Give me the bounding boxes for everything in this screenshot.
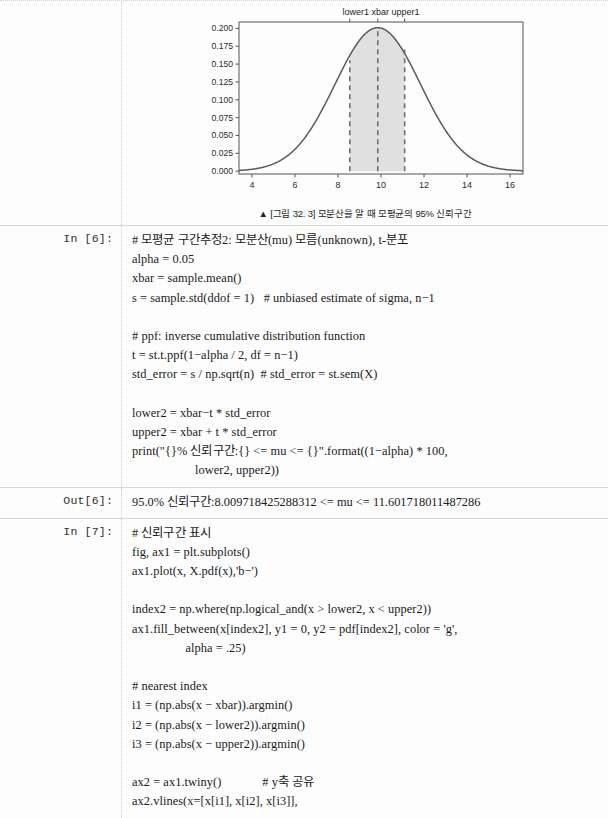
- code-line: [132, 308, 602, 327]
- code-line: [132, 754, 602, 773]
- code-line: # 신뢰구간 표시: [132, 524, 602, 543]
- code-line: i2 = (np.abs(x − lower2)).argmin(): [132, 716, 602, 735]
- cell-in-6: In [6]: # 모평균 구간추정2: 모분산(mu) 모름(unknown)…: [0, 226, 608, 487]
- x-tick-label: 8: [335, 180, 340, 190]
- code-area-in-6[interactable]: # 모평균 구간추정2: 모분산(mu) 모름(unknown), t-분포al…: [122, 226, 608, 487]
- code-line: # 모평균 구간추정2: 모분산(mu) 모름(unknown), t-분포: [132, 231, 602, 250]
- y-tick-label: 0.000: [211, 166, 233, 176]
- figure-cell-gutter: [0, 2, 122, 225]
- output-text-out-6: 95.0% 신뢰구간:8.009718425288312 <= mu <= 11…: [132, 493, 602, 512]
- code-line: print("{}% 신뢰구간:{} <= mu <= {}".format((…: [132, 442, 602, 461]
- y-tick-label: 0.200: [211, 23, 233, 33]
- y-tick-label: 0.175: [211, 41, 233, 51]
- code-line: t = st.t.ppf(1−alpha / 2, df = n−1): [132, 346, 602, 365]
- cell-out-6: Out[6]: 95.0% 신뢰구간:8.009718425288312 <= …: [0, 488, 608, 518]
- code-text-in-7: # 신뢰구간 표시fig, ax1 = plt.subplots()ax1.pl…: [132, 524, 602, 812]
- code-line: i1 = (np.abs(x − xbar)).argmin(): [132, 696, 602, 715]
- code-line: ax1.fill_between(x[index2], y1 = 0, y2 =…: [132, 620, 602, 639]
- code-line: ax1.plot(x, X.pdf(x),'b−'): [132, 562, 602, 581]
- prompt-in-6[interactable]: In [6]:: [0, 226, 122, 487]
- x-tick-label: 16: [505, 180, 515, 190]
- code-line: upper2 = xbar + t * std_error: [132, 423, 602, 442]
- code-line: [132, 581, 602, 600]
- x-tick-label: 4: [249, 180, 254, 190]
- code-line: [132, 658, 602, 677]
- code-line: std_error = s / np.sqrt(n) # std_error =…: [132, 365, 602, 384]
- code-line: xbar = sample.mean(): [132, 269, 602, 288]
- x-tick-label: 6: [292, 180, 297, 190]
- chart-figure: 468101214160.0000.0250.0500.0750.1000.12…: [122, 2, 608, 204]
- code-line: # ppf: inverse cumulative distribution f…: [132, 327, 602, 346]
- x-tick-label: 12: [419, 180, 429, 190]
- output-area-out-6: 95.0% 신뢰구간:8.009718425288312 <= mu <= 11…: [122, 488, 608, 518]
- y-tick-label: 0.150: [211, 59, 233, 69]
- code-line: alpha = .25): [132, 639, 602, 658]
- code-line: fig, ax1 = plt.subplots(): [132, 543, 602, 562]
- y-tick-label: 0.050: [211, 130, 233, 140]
- x-tick-label: 10: [376, 180, 386, 190]
- code-line: alpha = 0.05: [132, 250, 602, 269]
- prompt-in-7[interactable]: In [7]:: [0, 519, 122, 818]
- y-tick-label: 0.025: [211, 148, 233, 158]
- code-line: [132, 385, 602, 404]
- figure-output-cell: 468101214160.0000.0250.0500.0750.1000.12…: [0, 2, 608, 225]
- code-line: s = sample.std(ddof = 1) # unbiased esti…: [132, 289, 602, 308]
- code-line: ax2 = ax1.twiny() # y축 공유: [132, 773, 602, 792]
- y-tick-label: 0.125: [211, 77, 233, 87]
- prompt-out-6[interactable]: Out[6]:: [0, 488, 122, 518]
- normal-distribution-chart: 468101214160.0000.0250.0500.0750.1000.12…: [195, 6, 535, 202]
- figure-caption: ▲ [그림 32. 3] 모분산을 알 때 모평균의 95% 신뢰구간: [122, 204, 608, 225]
- code-line: # nearest index: [132, 677, 602, 696]
- code-line: lower2, upper2)): [132, 461, 602, 480]
- x-tick-label: 14: [462, 180, 472, 190]
- code-line: ax2.vlines(x=[x[i1], x[i2], x[i3]],: [132, 792, 602, 811]
- code-text-in-6: # 모평균 구간추정2: 모분산(mu) 모름(unknown), t-분포al…: [132, 231, 602, 481]
- code-line: i3 = (np.abs(x − upper2)).argmin(): [132, 735, 602, 754]
- code-line: index2 = np.where(np.logical_and(x > low…: [132, 600, 602, 619]
- cell-in-7: In [7]: # 신뢰구간 표시fig, ax1 = plt.subplots…: [0, 519, 608, 818]
- y-tick-label: 0.075: [211, 113, 233, 123]
- figure-cell-content: 468101214160.0000.0250.0500.0750.1000.12…: [122, 2, 608, 225]
- code-line: lower2 = xbar−t * std_error: [132, 404, 602, 423]
- top-axis-title: lower1 xbar upper1: [342, 7, 419, 17]
- code-line: 95.0% 신뢰구간:8.009718425288312 <= mu <= 11…: [132, 493, 602, 512]
- y-tick-label: 0.100: [211, 95, 233, 105]
- code-area-in-7[interactable]: # 신뢰구간 표시fig, ax1 = plt.subplots()ax1.pl…: [122, 519, 608, 818]
